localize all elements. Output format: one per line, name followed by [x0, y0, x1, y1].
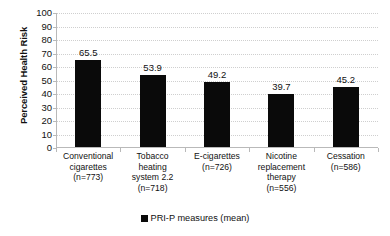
x-axis-category-label-line: Cessation	[314, 151, 378, 162]
legend: PRI-P measures (mean)	[0, 214, 390, 223]
gridline	[56, 13, 378, 14]
x-axis-category-label-line: Tobacco	[121, 151, 185, 162]
x-axis-category-label-line: replacement	[249, 162, 313, 173]
x-axis-category-label-line: (n=773)	[56, 172, 120, 183]
y-axis-tick-label: 10	[30, 130, 52, 140]
y-axis-tick-label: 30	[30, 103, 52, 113]
y-axis-tick	[53, 94, 56, 95]
x-axis-category-label: Nicotinereplacementtherapy(n=556)	[249, 151, 313, 193]
plot-area: 65.553.949.239.745.2	[56, 13, 378, 148]
y-axis-tick	[53, 67, 56, 68]
y-axis-tick	[53, 40, 56, 41]
x-axis-line	[56, 147, 378, 148]
x-axis-tick	[378, 148, 379, 152]
gridline	[56, 27, 378, 28]
bar	[140, 75, 166, 148]
x-axis-category-label-line: therapy	[249, 172, 313, 183]
bar-value-label: 65.5	[68, 48, 108, 58]
x-axis-category-label-line: (n=556)	[249, 183, 313, 194]
y-axis-tick-label: 20	[30, 116, 52, 126]
x-axis-category-label-line: (n=726)	[185, 162, 249, 173]
x-axis-category-label-line: system 2.2	[121, 172, 185, 183]
y-axis-tick-label: 100	[30, 8, 52, 18]
y-axis-tick	[53, 81, 56, 82]
y-axis-line	[56, 13, 57, 148]
x-axis-category-label: Tobaccoheatingsystem 2.2(n=718)	[121, 151, 185, 193]
y-axis-tick-labels: 1009080706050403020100	[30, 13, 52, 148]
y-axis-tick-label: 0	[30, 143, 52, 153]
x-axis-category-label-line: (n=586)	[314, 162, 378, 173]
x-axis-category-label-line: Nicotine	[249, 151, 313, 162]
x-axis-category-label-line: heating	[121, 162, 185, 173]
y-axis-tick-label: 50	[30, 76, 52, 86]
bar-value-label: 49.2	[197, 70, 237, 80]
y-axis-tick	[53, 54, 56, 55]
x-axis-category-label-line: Conventional	[56, 151, 120, 162]
gridline	[56, 67, 378, 68]
y-axis-tick	[53, 121, 56, 122]
y-axis-title: Perceived Health Risk	[18, 6, 29, 146]
bar	[268, 94, 294, 148]
y-axis-tick	[53, 135, 56, 136]
y-axis-tick-label: 90	[30, 22, 52, 32]
x-axis-category-label-line: E-cigarettes	[185, 151, 249, 162]
bar-chart: Perceived Health Risk 100908070605040302…	[0, 0, 390, 236]
legend-label: PRI-P measures (mean)	[151, 214, 250, 223]
x-axis-category-label: Cessation(n=586)	[314, 151, 378, 172]
y-axis-tick	[53, 108, 56, 109]
y-axis-tick-label: 80	[30, 35, 52, 45]
bar-value-label: 53.9	[133, 63, 173, 73]
y-axis-tick-label: 40	[30, 89, 52, 99]
gridline	[56, 40, 378, 41]
y-axis-tick-label: 70	[30, 49, 52, 59]
y-axis-tick-label: 60	[30, 62, 52, 72]
x-axis-category-label-line: (n=718)	[121, 183, 185, 194]
bar	[204, 82, 230, 148]
y-axis-tick	[53, 13, 56, 14]
bar	[75, 60, 101, 148]
y-axis-tick	[53, 27, 56, 28]
bar-value-label: 45.2	[326, 75, 366, 85]
legend-swatch-icon	[141, 215, 148, 222]
x-axis-category-labels: Conventionalcigarettes(n=773)Tobaccoheat…	[56, 151, 378, 203]
x-axis-category-label-line: cigarettes	[56, 162, 120, 173]
bar-value-label: 39.7	[261, 82, 301, 92]
x-axis-category-label: Conventionalcigarettes(n=773)	[56, 151, 120, 183]
x-axis-category-label: E-cigarettes(n=726)	[185, 151, 249, 172]
bar	[333, 87, 359, 148]
